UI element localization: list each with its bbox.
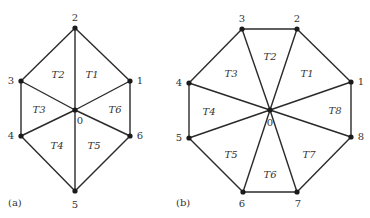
triangle-label: T3	[224, 68, 237, 79]
spoke-edge	[270, 29, 297, 110]
figure-b-octagon-triangulation: 012345678T1T2T3T4T5T6T7T8(b)	[176, 13, 364, 209]
node-label: 1	[358, 76, 364, 87]
triangle-label: T5	[224, 149, 237, 160]
figure-caption: (b)	[176, 197, 190, 208]
spoke-edge	[21, 81, 75, 110]
spoke-edge	[75, 110, 130, 136]
boundary-edge	[189, 138, 243, 192]
spoke-edge	[189, 110, 270, 138]
triangle-label: T4	[50, 140, 63, 151]
node-5	[72, 188, 77, 193]
triangle-label: T1	[300, 68, 313, 79]
node-8	[348, 134, 353, 139]
figure-a-hexagon-triangulation: 0123456T1T2T3T4T5T6(a)	[8, 12, 143, 210]
node-label: 5	[176, 132, 182, 143]
triangle-label: T2	[51, 69, 64, 80]
node-6	[240, 189, 245, 194]
node-2	[72, 25, 77, 30]
triangle-label: T2	[263, 51, 276, 62]
triangle-label: T3	[32, 104, 45, 115]
node-5	[186, 135, 191, 140]
triangle-label: T7	[302, 149, 316, 160]
spoke-edge	[189, 83, 270, 110]
node-label: 3	[8, 75, 14, 86]
triangle-label: T5	[87, 140, 100, 151]
triangle-label: T4	[202, 106, 215, 117]
node-label: 8	[358, 131, 364, 142]
node-label: 4	[8, 130, 14, 141]
node-label: 3	[239, 13, 245, 24]
node-6	[127, 133, 132, 138]
node-label: 4	[176, 77, 182, 88]
node-label: 6	[137, 130, 143, 141]
node-2	[294, 26, 299, 31]
boundary-edge	[297, 137, 351, 192]
node-4	[186, 80, 191, 85]
node-label: 0	[267, 117, 273, 128]
triangle-label: T8	[328, 105, 341, 116]
node-label: 2	[72, 12, 78, 23]
spoke-edge	[270, 110, 297, 192]
triangle-label: T1	[85, 69, 98, 80]
boundary-edge	[75, 136, 130, 191]
node-label: 0	[77, 115, 83, 126]
node-1	[348, 79, 353, 84]
triangle-label: T6	[108, 104, 122, 115]
node-0	[72, 107, 77, 112]
spoke-edge	[21, 110, 75, 136]
node-0	[267, 107, 272, 112]
node-label: 2	[294, 13, 300, 24]
boundary-edge	[75, 28, 130, 81]
node-label: 7	[295, 198, 301, 209]
triangulation-diagram: 0123456T1T2T3T4T5T6(a) 012345678T1T2T3T4…	[0, 0, 370, 218]
node-1	[127, 78, 132, 83]
node-label: 6	[239, 198, 245, 209]
node-7	[294, 189, 299, 194]
figure-caption: (a)	[8, 197, 22, 208]
node-label: 1	[137, 75, 143, 86]
triangle-label: T6	[263, 169, 277, 180]
node-4	[18, 133, 23, 138]
boundary-edge	[21, 136, 75, 191]
node-3	[18, 78, 23, 83]
spoke-edge	[242, 29, 270, 110]
boundary-edge	[21, 28, 75, 81]
node-3	[239, 26, 244, 31]
node-label: 5	[72, 199, 78, 210]
spoke-edge	[75, 81, 130, 110]
